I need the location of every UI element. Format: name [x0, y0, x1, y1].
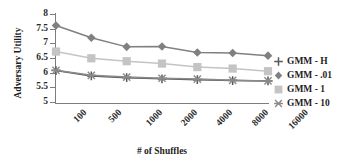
diamond-point-marker [193, 48, 202, 57]
legend-item-gmm-001[interactable]: GMM - .01 [272, 68, 352, 82]
square-point-marker [264, 67, 272, 75]
y-tick-label: 5 [43, 97, 48, 107]
x-tick-label: 16000 [287, 108, 311, 132]
plot-area [56, 14, 268, 102]
square-marker-icon [272, 83, 284, 95]
diamond-point-marker [122, 43, 131, 52]
y-tick-label: 5.5 [36, 82, 48, 92]
diamond-point-marker [228, 49, 237, 58]
x-tick-label: 4000 [215, 108, 235, 128]
y-tick-label: 6 [43, 68, 48, 78]
y-tick-label: 8 [43, 9, 48, 19]
plus-marker-icon [272, 55, 284, 67]
y-tick-label: 7 [43, 38, 48, 48]
y-tick-mark [50, 14, 55, 15]
chart-legend: GMM - H GMM - .01 GMM - 1 GMM - 10 [272, 54, 352, 110]
y-tick-mark [50, 43, 55, 44]
x-tick-label: 8000 [250, 108, 270, 128]
square-point-marker [52, 47, 60, 55]
x-tick-label: 2000 [180, 108, 200, 128]
diamond-point-marker [264, 51, 273, 60]
diamond-marker-icon [272, 69, 284, 81]
y-tick-mark [50, 58, 55, 59]
diamond-point-marker [87, 33, 96, 42]
legend-label-gmm-001: GMM - .01 [287, 70, 332, 80]
x-tick-label: 500 [108, 108, 125, 125]
y-tick-label: 7.5 [36, 24, 48, 34]
legend-item-gmm-10[interactable]: GMM - 10 [272, 96, 352, 110]
square-point-marker [123, 57, 131, 65]
legend-label-gmm-h: GMM - H [287, 56, 328, 66]
square-point-marker [229, 64, 237, 72]
y-tick-label: 6.5 [36, 53, 48, 63]
square-point-marker [158, 59, 166, 67]
y-tick-mark [50, 87, 55, 88]
x-axis-line [55, 103, 269, 104]
y-tick-mark [50, 102, 55, 103]
diamond-point-marker [158, 42, 167, 51]
y-tick-mark [50, 73, 55, 74]
y-axis-title: Adversary Utility [13, 15, 23, 111]
chart-container: Adversary Utility 55.566.577.58 10050010… [0, 0, 354, 167]
x-tick-label: 100 [72, 108, 89, 125]
x-axis-title: # of Shuffles [56, 146, 268, 156]
y-axis-tick-labels: 55.566.577.58 [26, 0, 48, 167]
y-tick-mark [50, 29, 55, 30]
square-point-marker [87, 54, 95, 62]
legend-label-gmm-10: GMM - 10 [287, 98, 330, 108]
legend-label-gmm-1: GMM - 1 [287, 84, 325, 94]
series-line [56, 25, 268, 55]
series-layer [56, 14, 268, 102]
legend-item-gmm-h[interactable]: GMM - H [272, 54, 352, 68]
star-x-marker-icon [272, 97, 284, 109]
square-point-marker [193, 63, 201, 71]
x-tick-label: 1000 [144, 108, 164, 128]
legend-item-gmm-1[interactable]: GMM - 1 [272, 82, 352, 96]
